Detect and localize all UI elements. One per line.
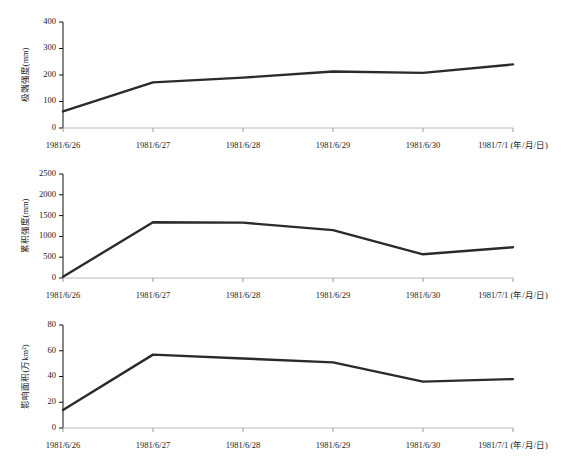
- y-tick-label: 1000: [39, 230, 56, 240]
- y-tick-label: 0: [52, 422, 56, 432]
- y-tick-label: 0: [52, 122, 56, 132]
- y-tick-label: 2000: [39, 189, 56, 199]
- y-tick-label: 80: [48, 319, 57, 329]
- chart-svg-1: 050010001500200025001981/6/261981/6/2719…: [0, 150, 570, 310]
- y-tick-label: 40: [48, 370, 57, 380]
- x-tick-label: 1981/6/27: [136, 440, 170, 450]
- chart-panel-extreme-intensity: 01002003004001981/6/261981/6/271981/6/28…: [0, 0, 570, 160]
- figure-root: 01002003004001981/6/261981/6/271981/6/28…: [0, 0, 570, 464]
- chart-panel-affected-area: 0204060801981/6/261981/6/271981/6/281981…: [0, 295, 570, 464]
- chart-svg-2: 0204060801981/6/261981/6/271981/6/281981…: [0, 295, 570, 464]
- x-tick-label: 1981/6/29: [316, 440, 350, 450]
- y-tick-label: 400: [43, 16, 56, 26]
- chart-svg-0: 01002003004001981/6/261981/6/271981/6/28…: [0, 0, 570, 160]
- y-tick-label: 0: [52, 272, 56, 282]
- y-tick-label: 1500: [39, 210, 56, 220]
- chart-panel-cumulative-intensity: 050010001500200025001981/6/261981/6/2719…: [0, 150, 570, 310]
- y-tick-label: 20: [48, 396, 57, 406]
- x-tick-label: 1981/6/30: [406, 440, 440, 450]
- y-tick-label: 60: [48, 345, 57, 355]
- data-series-line: [63, 64, 513, 111]
- x-tick-label: 1981/7/1 (年/月/日): [478, 440, 548, 450]
- y-tick-label: 300: [43, 42, 56, 52]
- x-tick-label: 1981/6/27: [136, 140, 170, 150]
- y-tick-label: 500: [43, 251, 56, 261]
- x-tick-label: 1981/7/1 (年/月/日): [478, 140, 548, 150]
- y-axis-label: 影响面积(万km²): [20, 344, 30, 408]
- y-tick-label: 100: [43, 95, 56, 105]
- y-tick-label: 2500: [39, 168, 56, 178]
- x-tick-label: 1981/6/26: [46, 140, 80, 150]
- y-tick-label: 200: [43, 69, 56, 79]
- x-tick-label: 1981/6/28: [226, 140, 260, 150]
- x-tick-label: 1981/6/26: [46, 440, 80, 450]
- x-tick-label: 1981/6/30: [406, 140, 440, 150]
- y-axis-label: 极端强度(mm): [20, 47, 30, 102]
- data-series-line: [63, 222, 513, 276]
- x-tick-label: 1981/6/28: [226, 440, 260, 450]
- y-axis-label: 累积强度(mm): [20, 198, 30, 253]
- data-series-line: [63, 355, 513, 410]
- x-tick-label: 1981/6/29: [316, 140, 350, 150]
